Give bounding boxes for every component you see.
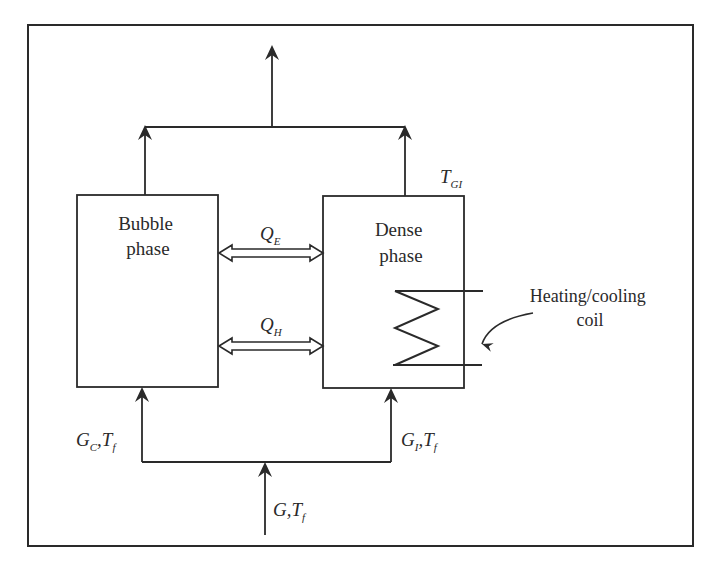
outlet-temp-label: TGI [440, 166, 464, 190]
coil-annotation: Heating/cooling coil [530, 286, 650, 330]
bubble-phase-label: Bubble phase [118, 213, 178, 259]
qh-label: QH [260, 314, 283, 338]
dense-inlet-label: GI,Tf [401, 429, 439, 453]
qe-label: QE [260, 223, 281, 247]
feed-label: G,Tf [273, 499, 307, 523]
qe-exchange-arrow [219, 245, 323, 261]
bubble-inlet-label: GC,Tf [76, 429, 117, 453]
fluidized-bed-diagram: Bubble phase Dense phase TGI QE QH Heati… [0, 0, 708, 570]
qh-exchange-arrow [219, 338, 323, 354]
dense-phase-label: Dense phase [375, 219, 427, 266]
coil-pointer-arrow [482, 313, 533, 344]
heating-cooling-coil [393, 291, 483, 365]
